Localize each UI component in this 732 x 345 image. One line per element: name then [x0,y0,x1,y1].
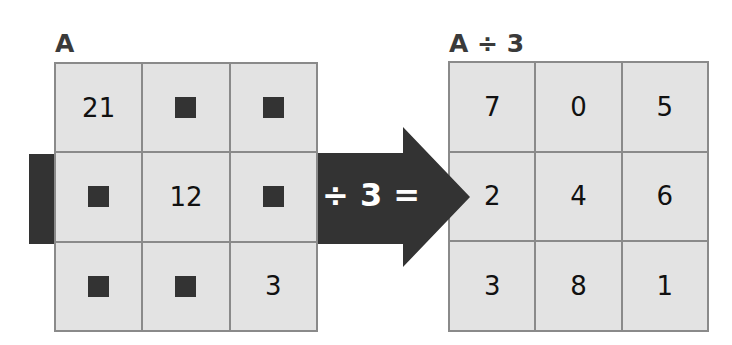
arrow-label: ÷ 3 = [322,176,452,214]
right-arrow-icon [0,0,732,345]
